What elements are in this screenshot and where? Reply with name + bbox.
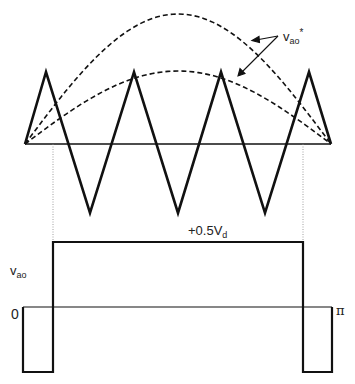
- output-axis-label: vao: [10, 264, 27, 280]
- reference-signal-label: vao*: [283, 28, 303, 46]
- output-label-sub: ao: [17, 270, 27, 280]
- triangle-carrier-waveform: [25, 72, 331, 213]
- reference-label-sup: *: [300, 27, 304, 38]
- high-level-label-sub: d: [222, 230, 227, 240]
- pwm-diagram: [0, 0, 355, 384]
- high-level-label: +0.5Vd: [188, 224, 227, 240]
- projection-lines: [53, 144, 303, 242]
- reference-signal-small-arc: [25, 71, 331, 144]
- high-level-label-main: +0.5V: [188, 223, 222, 238]
- pi-label: π: [336, 304, 345, 317]
- reference-label-sub: ao: [290, 36, 300, 46]
- zero-label: 0: [11, 307, 19, 321]
